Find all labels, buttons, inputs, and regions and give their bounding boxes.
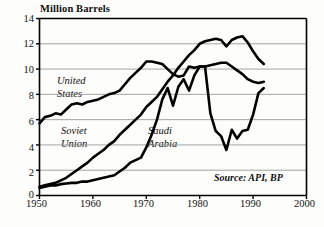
series-lines xyxy=(40,36,264,188)
chart-plot-area xyxy=(0,0,324,227)
oil-production-chart: Million Barrels 14 12 10 8 6 4 2 0 1950 … xyxy=(0,0,324,227)
